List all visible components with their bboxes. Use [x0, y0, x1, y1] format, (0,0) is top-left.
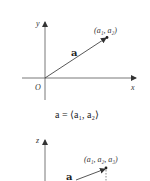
vector-label-2d: a — [71, 47, 78, 58]
point-label-2d: (a₁, a₂) — [94, 26, 117, 35]
y-axis-label: y — [35, 19, 40, 28]
caption-2d: a = ⟨a₁, a₂⟩ — [55, 109, 99, 120]
vector-a-2d — [45, 38, 106, 78]
vector-a-3d — [76, 169, 105, 180]
z-axis-label: z — [35, 136, 40, 145]
figure-3d: z a (a₁, a₂, a₃) — [35, 136, 118, 181]
vector-label-3d: a — [66, 171, 73, 181]
point-3d — [105, 167, 108, 170]
x-axis-label: x — [130, 83, 135, 92]
origin-label: O — [35, 83, 41, 92]
vector-diagram: y x O a (a₁, a₂) a = ⟨a₁, a₂⟩ z a (a₁, a… — [0, 0, 150, 181]
figure-2d: y x O a (a₁, a₂) a = ⟨a₁, a₂⟩ — [22, 19, 136, 120]
point-2d — [106, 36, 109, 39]
point-label-3d: (a₁, a₂, a₃) — [84, 155, 118, 164]
